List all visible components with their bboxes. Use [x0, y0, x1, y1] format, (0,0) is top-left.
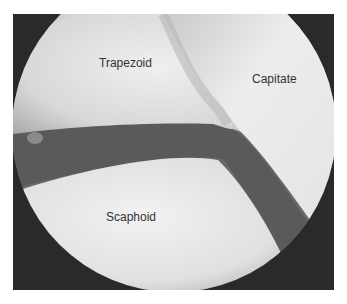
- label-capitate: Capitate: [252, 72, 297, 86]
- arthroscopic-image: [13, 14, 334, 290]
- label-scaphoid: Scaphoid: [106, 210, 156, 224]
- arthroscopic-view: [13, 14, 334, 290]
- label-trapezoid: Trapezoid: [99, 56, 152, 70]
